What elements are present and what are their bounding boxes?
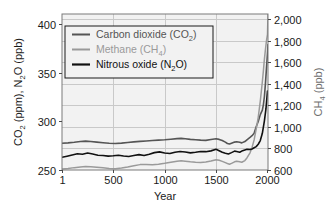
y-tick-label-right: 1,800 <box>274 36 302 48</box>
x-axis-title: Year <box>154 190 177 202</box>
y-tick-label-right: 1,200 <box>274 100 302 112</box>
y-tick-label-right: 2,000 <box>274 14 302 26</box>
y-tick-label-right: 600 <box>274 165 292 177</box>
y-tick-label-right: 1,600 <box>274 57 302 69</box>
greenhouse-gas-concentration-chart: 1500100015002000 250300350400 6008001,00… <box>0 0 332 211</box>
y-tick-label-left: 300 <box>38 116 56 128</box>
y-tick-label-left: 350 <box>38 68 56 80</box>
chart-canvas: 1500100015002000 250300350400 6008001,00… <box>0 0 332 211</box>
y-tick-label-right: 1,400 <box>274 79 302 91</box>
y-tick-label-right: 1,000 <box>274 122 302 134</box>
y-tick-label-left: 400 <box>38 19 56 31</box>
y-tick-label-left: 250 <box>38 165 56 177</box>
x-tick-label: 1500 <box>204 174 228 186</box>
x-tick-label: 1 <box>59 174 65 186</box>
chart-legend: Carbon dioxide (CO2)Methane (CH4)Nitrous… <box>65 26 213 78</box>
y-tick-label-right: 800 <box>274 143 292 155</box>
x-tick-label: 500 <box>104 174 122 186</box>
x-tick-label: 1000 <box>153 174 177 186</box>
